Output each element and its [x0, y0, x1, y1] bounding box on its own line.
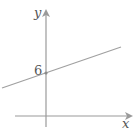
function-line: [2, 47, 121, 88]
y-intercept-point: [44, 71, 47, 74]
graph: y 6 x: [0, 0, 139, 131]
x-axis-label: x: [122, 116, 130, 131]
y-axis-label: y: [33, 5, 42, 20]
y-intercept-label: 6: [34, 63, 42, 78]
